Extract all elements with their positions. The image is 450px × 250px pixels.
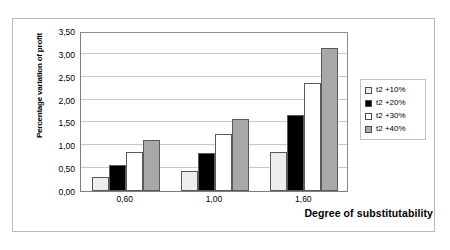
y-tick-label: 3,50 <box>45 28 75 37</box>
legend-swatch <box>365 126 372 133</box>
bar[interactable] <box>215 134 232 191</box>
bar[interactable] <box>109 165 126 192</box>
plot-area <box>80 32 348 192</box>
bar-group <box>181 33 249 191</box>
bar[interactable] <box>126 152 143 191</box>
legend-item[interactable]: t2 +30% <box>365 110 422 122</box>
y-tick-label: 2,00 <box>45 97 75 106</box>
y-tick-label: 1,50 <box>45 119 75 128</box>
legend-label: t2 +10% <box>376 86 406 94</box>
x-tick-label: 1,60 <box>283 195 323 204</box>
bar[interactable] <box>232 119 249 191</box>
legend-label: t2 +30% <box>376 112 406 120</box>
legend-swatch <box>365 100 372 107</box>
legend-label: t2 +20% <box>376 99 406 107</box>
y-axis-tick-labels: 0,000,501,001,502,002,503,003,50 <box>41 19 75 193</box>
bar[interactable] <box>143 140 160 191</box>
legend-swatch <box>365 113 372 120</box>
x-tick-label: 1,00 <box>194 195 234 204</box>
chart-frame: Percentage variation of profit 0,000,501… <box>12 18 435 232</box>
bar-group <box>92 33 160 191</box>
y-tick-label: 3,00 <box>45 51 75 60</box>
legend-item[interactable]: t2 +10% <box>365 84 422 96</box>
bar-group <box>270 33 338 191</box>
legend: t2 +10%t2 +20%t2 +30%t2 +40% <box>360 79 426 140</box>
legend-item[interactable]: t2 +40% <box>365 123 422 135</box>
y-tick-label: 0,00 <box>45 188 75 197</box>
y-tick-label: 1,00 <box>45 142 75 151</box>
bar[interactable] <box>198 153 215 191</box>
bar[interactable] <box>270 152 287 191</box>
y-tick-label: 0,50 <box>45 165 75 174</box>
bar[interactable] <box>304 83 321 191</box>
x-tick-label: 0,60 <box>105 195 145 204</box>
y-tick-label: 2,50 <box>45 74 75 83</box>
legend-label: t2 +40% <box>376 125 406 133</box>
x-axis-title: Degree of substitutability <box>213 207 433 219</box>
legend-item[interactable]: t2 +20% <box>365 97 422 109</box>
bar[interactable] <box>181 171 198 191</box>
legend-swatch <box>365 87 372 94</box>
bar[interactable] <box>321 48 338 191</box>
bar[interactable] <box>287 115 304 191</box>
bar[interactable] <box>92 177 109 191</box>
bars-layer <box>81 33 347 191</box>
